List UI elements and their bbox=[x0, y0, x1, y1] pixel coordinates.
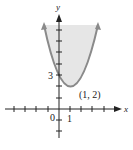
y-tick-label-3: 3 bbox=[48, 70, 53, 81]
x-tick-label-1: 1 bbox=[67, 113, 72, 124]
y-axis-label: y bbox=[55, 2, 60, 12]
vertex-label: (1, 2) bbox=[79, 89, 101, 101]
x-axis bbox=[5, 106, 118, 112]
x-axis-arrow-icon bbox=[114, 106, 122, 112]
parabola-graph: y x 3 0 1 (1, 2) bbox=[0, 0, 133, 150]
y-axis-arrow-icon bbox=[56, 14, 62, 22]
x-axis-label: x bbox=[123, 104, 128, 114]
origin-label: 0 bbox=[50, 112, 55, 123]
